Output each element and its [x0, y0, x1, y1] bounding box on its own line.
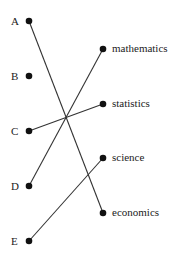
label-mathematics: mathematics — [112, 42, 168, 54]
label-c: C — [11, 125, 18, 137]
label-d: D — [11, 180, 19, 192]
label-statistics: statistics — [112, 97, 150, 109]
label-economics: economics — [112, 206, 159, 218]
dot-statistics — [100, 101, 107, 108]
dot-a — [26, 18, 33, 25]
edge-e-science — [29, 158, 103, 241]
dot-e — [26, 238, 33, 245]
dot-economics — [100, 210, 107, 217]
label-e: E — [11, 235, 18, 247]
label-science: science — [112, 151, 144, 163]
right-nodes: mathematics statistics science economics — [100, 42, 168, 218]
edge-d-mathematics — [29, 49, 103, 186]
label-b: B — [11, 70, 18, 82]
left-nodes: A B C D E — [11, 15, 32, 247]
dot-c — [26, 128, 33, 135]
matching-diagram: A B C D E mathematics statistics science… — [0, 0, 179, 254]
dot-mathematics — [100, 46, 107, 53]
dot-d — [26, 183, 33, 190]
label-a: A — [11, 15, 19, 27]
edges — [29, 21, 103, 241]
dot-science — [100, 155, 107, 162]
dot-b — [26, 73, 33, 80]
